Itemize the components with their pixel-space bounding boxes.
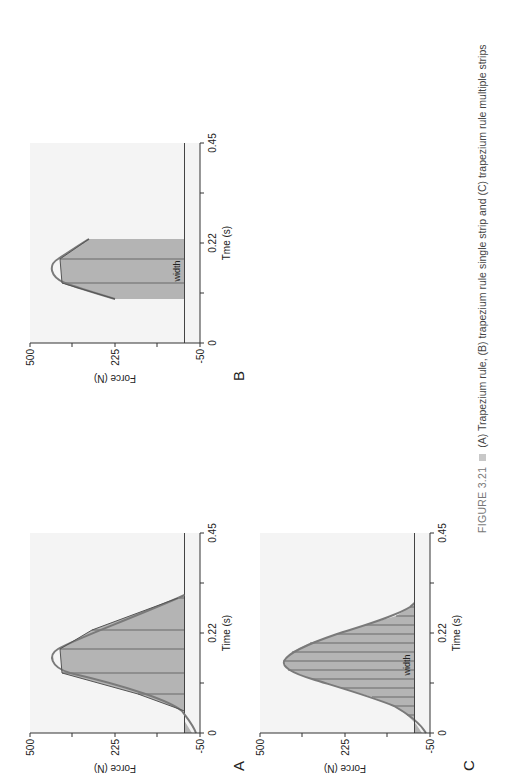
ytick-neg50: -50 [195, 349, 206, 364]
panel-c-label: C [460, 760, 477, 771]
x-axis-label: Time (s) [221, 615, 232, 651]
xtick-022: 0.22 [437, 623, 448, 643]
xtick-045: 0.45 [437, 523, 448, 543]
x-axis-label: Tme (s) [221, 226, 232, 260]
rotated-figure: 500 225 -50 0 0.22 0.45 Time (s) Force (… [0, 0, 508, 783]
width-label: width [402, 654, 412, 676]
panel-c-plot: width 500 225 -50 0 0.22 0.45 Time (s) F… [250, 513, 480, 773]
panel-b-plot: width 500 225 -50 0 0.22 0.45 Tme (s) Fo… [20, 123, 250, 383]
caption-square-icon [479, 454, 486, 461]
ytick-225: 225 [340, 739, 351, 756]
x-axis-label: Time (s) [451, 615, 462, 651]
y-axis-label: Force (N) [324, 763, 366, 774]
ytick-225: 225 [110, 739, 121, 756]
panel-c: width 500 225 -50 0 0.22 0.45 Time (s) F… [250, 513, 480, 773]
panel-b-label: B [230, 371, 247, 381]
panel-b: width 500 225 -50 0 0.22 0.45 Tme (s) Fo… [20, 123, 250, 383]
ytick-500: 500 [25, 739, 36, 756]
ytick-500: 500 [255, 739, 266, 756]
y-axis-label: Force (N) [94, 373, 136, 384]
ytick-neg50: -50 [195, 739, 206, 754]
xtick-022: 0.22 [207, 623, 218, 643]
xtick-045: 0.45 [207, 523, 218, 543]
panel-a-label: A [230, 761, 247, 771]
ytick-neg50: -50 [425, 739, 436, 754]
y-axis-label: Force (N) [94, 763, 136, 774]
figure-number: FIGURE 3.21 [476, 467, 488, 533]
panel-a: 500 225 -50 0 0.22 0.45 Time (s) Force (… [20, 513, 250, 773]
xtick-0: 0 [207, 730, 218, 736]
xtick-022: 0.22 [207, 233, 218, 253]
xtick-0: 0 [207, 340, 218, 346]
ytick-500: 500 [25, 349, 36, 366]
ytick-225: 225 [110, 349, 121, 366]
figure-caption: FIGURE 3.21(A) Trapezium rule, (B) trape… [476, 13, 488, 533]
caption-text: (A) Trapezium rule, (B) trapezium rule s… [476, 44, 488, 447]
width-label: width [172, 260, 182, 282]
panel-a-plot: 500 225 -50 0 0.22 0.45 Time (s) Force (… [20, 513, 250, 773]
xtick-045: 0.45 [207, 133, 218, 153]
xtick-0: 0 [437, 730, 448, 736]
